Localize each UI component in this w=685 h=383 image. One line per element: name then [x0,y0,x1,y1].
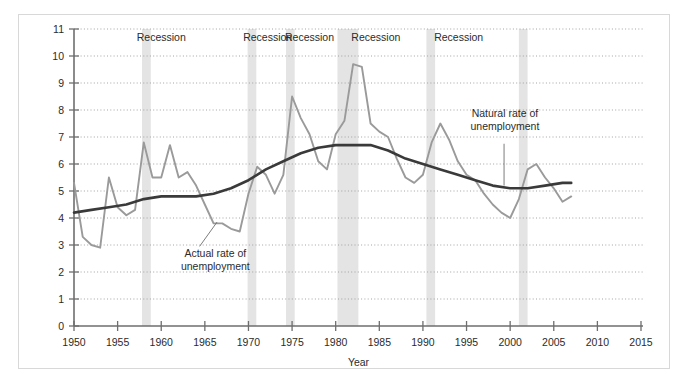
y-tick-label: 3 [58,239,64,251]
actual-rate-annotation: Actual rate ofunemployment [181,247,250,272]
x-tick-label: 2010 [586,336,610,348]
recession-band [337,29,358,326]
x-tick-label: 1990 [411,336,435,348]
recession-label: Recession [285,31,334,43]
natural-rate-annotation: Natural rate ofunemployment [470,107,539,132]
x-axis-title: Year [348,356,370,368]
x-tick-label: 1970 [237,336,261,348]
recession-label: Recession [434,31,483,43]
y-tick-label: 9 [58,77,64,89]
recession-band [142,29,151,326]
x-tick-label: 1985 [368,336,392,348]
chart-canvas: 0123456789101119501955196019651970197519… [19,15,671,370]
gridlines [74,29,643,299]
annotation-leader-line [200,222,217,246]
recession-band [426,29,435,326]
x-tick-label: 2000 [498,336,522,348]
recession-band [519,29,528,326]
annotation-line: unemployment [181,260,250,272]
x-tick-label: 1960 [150,336,174,348]
y-tick-label: 8 [58,104,64,116]
plot-frame: 0123456789101119501955196019651970197519… [18,14,670,369]
annotations: Actual rate ofunemploymentNatural rate o… [181,107,540,272]
x-tick-label: 1975 [280,336,304,348]
y-tick-label: 10 [52,50,64,62]
y-tick-label: 1 [58,293,64,305]
x-tick-label: 1980 [324,336,348,348]
x-tick-label: 1995 [455,336,479,348]
y-tick-label: 6 [58,158,64,170]
y-tick-label: 2 [58,266,64,278]
recession-label: Recession [137,31,186,43]
y-tick-label: 11 [53,23,64,35]
x-tick-label: 2005 [542,336,566,348]
x-tick-label: 1955 [106,336,130,348]
annotation-line: Actual rate of [184,247,246,259]
recession-label: Recession [351,31,400,43]
recession-band [286,29,295,326]
x-tick-label: 2015 [629,336,653,348]
x-tick-label: 1950 [62,336,86,348]
y-tick-label: 4 [58,212,64,224]
unemployment-rate-figure: 0123456789101119501955196019651970197519… [0,0,685,383]
annotation-line: Natural rate of [472,107,539,119]
y-tick-label: 7 [58,131,64,143]
y-tick-label: 5 [58,185,64,197]
x-tick-label: 1965 [193,336,217,348]
annotation-line: unemployment [470,120,539,132]
y-tick-label: 0 [58,320,64,332]
